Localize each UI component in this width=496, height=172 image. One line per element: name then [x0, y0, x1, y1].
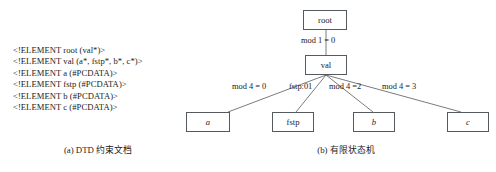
panel-b-caption: (b) 有限状态机	[196, 143, 496, 156]
dtd-line: <!ELEMENT b (#PCDATA)>	[13, 91, 193, 102]
fsm-node-c[interactable]: c	[447, 112, 489, 132]
fsm-node-a[interactable]: a	[186, 112, 230, 132]
fsm-node-fstp[interactable]: fstp	[272, 112, 314, 132]
fsm-edge-label-val-b: mod 4 =2	[329, 82, 361, 91]
dtd-code-listing: <!ELEMENT root (val*)> <!ELEMENT val (a*…	[13, 45, 193, 113]
fsm-node-a-label: a	[206, 117, 210, 127]
dtd-line: <!ELEMENT fstp (#PCDATA)>	[13, 79, 193, 90]
dtd-line: <!ELEMENT root (val*)>	[13, 45, 193, 56]
panel-a-caption: (a) DTD 约束文档	[0, 143, 196, 156]
fsm-edge-label-val-fstp: fstp:01	[289, 82, 312, 91]
fsm-node-b[interactable]: b	[353, 112, 395, 132]
fsm-node-fstp-label: fstp	[287, 117, 300, 127]
fsm-edge-label-val-a: mod 4 = 0	[232, 82, 266, 91]
dtd-line: <!ELEMENT c (#PCDATA)>	[13, 102, 193, 113]
fsm-node-root[interactable]: root	[303, 10, 347, 30]
edge-val-b	[326, 75, 373, 112]
figure-container: <!ELEMENT root (val*)> <!ELEMENT val (a*…	[0, 0, 496, 172]
dtd-line: <!ELEMENT val (a*, fstp*, b*, c*)>	[13, 56, 193, 67]
fsm-node-val[interactable]: val	[305, 55, 347, 75]
fsm-edge-label-root-val: mod 1 = 0	[301, 36, 335, 45]
dtd-line: <!ELEMENT a (#PCDATA)>	[13, 68, 193, 79]
fsm-node-val-label: val	[321, 60, 332, 70]
fsm-edge-label-val-c: mod 4 = 3	[382, 82, 416, 91]
fsm-node-b-label: b	[372, 117, 376, 127]
fsm-node-c-label: c	[466, 117, 470, 127]
edge-val-c	[326, 75, 461, 112]
panel-dtd-document: <!ELEMENT root (val*)> <!ELEMENT val (a*…	[0, 0, 196, 172]
panel-fsm-diagram: root val a fstp b c mod 1 = 0 mod 4 = 0 …	[196, 0, 496, 172]
fsm-node-root-label: root	[318, 15, 332, 25]
